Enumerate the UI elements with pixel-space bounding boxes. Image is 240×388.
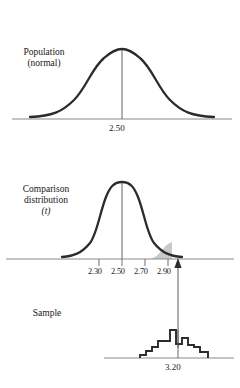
- population-label-line1: Population: [6, 47, 82, 58]
- population-label-line2: (normal): [6, 58, 82, 69]
- comparison-label-line2: distribution: [4, 195, 88, 206]
- comparison-label: Comparison distribution (t): [4, 184, 88, 217]
- population-center-value: 2.50: [109, 123, 125, 133]
- statistics-figure: Population (normal) 2.50 Comparison dist…: [0, 0, 240, 388]
- comparison-tick-label-2-70: 2.70: [134, 267, 148, 276]
- comparison-label-line1: Comparison: [4, 184, 88, 195]
- sample-label: Sample: [16, 308, 78, 319]
- sample-panel: [104, 330, 234, 358]
- population-label: Population (normal): [6, 47, 82, 69]
- comparison-tick-label-2-50: 2.50: [111, 267, 125, 276]
- comparison-tick-marks: [99, 259, 168, 266]
- sample-histogram-outline: [140, 330, 208, 358]
- comparison-label-line3: (t): [4, 206, 88, 217]
- comparison-tick-label-2-90: 2.90: [157, 267, 171, 276]
- sample-marker-value: 3.20: [165, 362, 181, 372]
- comparison-tick-label-2-30: 2.30: [88, 267, 102, 276]
